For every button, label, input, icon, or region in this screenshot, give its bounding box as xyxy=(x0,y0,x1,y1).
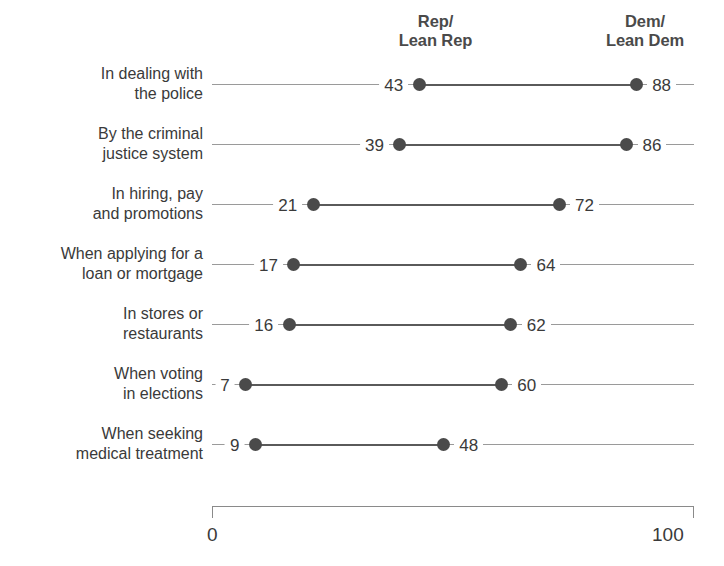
row-category-label: When seeking medical treatment xyxy=(8,424,203,463)
rep-value-label: 17 xyxy=(254,256,283,273)
dem-dot[interactable] xyxy=(504,318,517,331)
row-category-label: By the criminal justice system xyxy=(8,124,203,163)
row-category-label: When applying for a loan or mortgage xyxy=(8,244,203,283)
dem-value-label: 72 xyxy=(570,196,599,213)
rep-value-label: 16 xyxy=(249,316,278,333)
row-category-label: In hiring, pay and promotions xyxy=(8,184,203,223)
row-connector-line xyxy=(400,144,627,146)
row-category-label: In dealing with the police xyxy=(8,64,203,103)
x-axis xyxy=(212,506,694,518)
dem-value-label: 86 xyxy=(638,136,667,153)
dem-value-label: 62 xyxy=(522,316,551,333)
chart-row: When applying for a loan or mortgage1764 xyxy=(0,238,724,298)
axis-tick-max: 100 xyxy=(652,524,684,546)
rep-dot[interactable] xyxy=(307,198,320,211)
row-connector-line xyxy=(246,384,501,386)
chart-row: When voting in elections760 xyxy=(0,358,724,418)
row-category-label: In stores or restaurants xyxy=(8,304,203,343)
rep-dot[interactable] xyxy=(287,258,300,271)
rep-value-label: 21 xyxy=(273,196,302,213)
row-category-label: When voting in elections xyxy=(8,364,203,403)
chart-row: In hiring, pay and promotions2172 xyxy=(0,178,724,238)
dem-value-label: 60 xyxy=(512,376,541,393)
rep-dot[interactable] xyxy=(249,438,262,451)
dem-dot[interactable] xyxy=(620,138,633,151)
dot-plot-chart: Rep/ Lean Rep Dem/ Lean Dem In dealing w… xyxy=(0,0,724,566)
rep-dot[interactable] xyxy=(239,378,252,391)
row-connector-line xyxy=(419,84,636,86)
column-header-rep: Rep/ Lean Rep xyxy=(358,12,513,51)
dem-dot[interactable] xyxy=(553,198,566,211)
row-connector-line xyxy=(294,264,521,266)
dem-value-label: 64 xyxy=(531,256,560,273)
dem-dot[interactable] xyxy=(630,78,643,91)
rep-value-label: 7 xyxy=(215,376,234,393)
row-connector-line xyxy=(313,204,559,206)
chart-row: In stores or restaurants1662 xyxy=(0,298,724,358)
axis-tick-min: 0 xyxy=(207,524,218,546)
chart-row: By the criminal justice system3986 xyxy=(0,118,724,178)
row-connector-line xyxy=(289,324,511,326)
row-connector-line xyxy=(255,444,443,446)
dem-value-label: 48 xyxy=(454,436,483,453)
rep-value-label: 9 xyxy=(225,436,244,453)
rep-value-label: 43 xyxy=(379,76,408,93)
rep-dot[interactable] xyxy=(283,318,296,331)
dem-dot[interactable] xyxy=(514,258,527,271)
chart-row: In dealing with the police4388 xyxy=(0,58,724,118)
dem-dot[interactable] xyxy=(495,378,508,391)
column-header-dem: Dem/ Lean Dem xyxy=(570,12,720,51)
chart-row: When seeking medical treatment948 xyxy=(0,418,724,478)
dem-value-label: 88 xyxy=(647,76,676,93)
dem-dot[interactable] xyxy=(437,438,450,451)
rep-value-label: 39 xyxy=(360,136,389,153)
rep-dot[interactable] xyxy=(393,138,406,151)
rep-dot[interactable] xyxy=(413,78,426,91)
